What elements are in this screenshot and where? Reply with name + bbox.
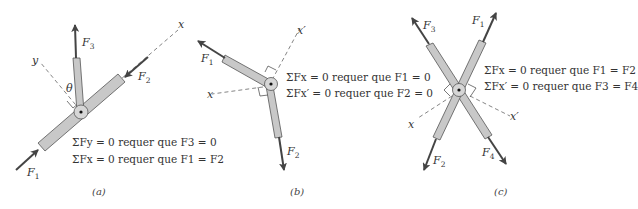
x-axis-label: x <box>178 18 185 31</box>
x-axis-label: x <box>207 88 214 101</box>
panel-b-equation-1: ΣFx = 0 requer que F1 = 0 <box>286 70 431 84</box>
panel-c-caption: (c) <box>494 186 507 197</box>
force-f2-arrow <box>279 137 284 170</box>
x-axis-label: x <box>408 118 415 131</box>
force-f2-label: F2 <box>286 145 300 160</box>
force-f1-label: F1 <box>471 14 484 29</box>
force-f2-label: F2 <box>137 70 151 85</box>
x-prime-axis-label: x′ <box>510 110 519 123</box>
force-f1-label: F1 <box>200 52 213 67</box>
panel-a-equation-1: ΣFy = 0 requer que F3 = 0 <box>72 135 217 149</box>
y-axis-label: y <box>31 54 39 67</box>
force-f3-label: F3 <box>81 36 95 51</box>
force-f2-label: F2 <box>432 154 446 169</box>
theta-label: θ <box>66 82 73 95</box>
force-f3-arrow <box>75 25 76 58</box>
force-f3-label: F3 <box>422 19 436 34</box>
panel-b-caption: (b) <box>290 186 304 197</box>
x-prime-axis-label: x′ <box>297 24 306 37</box>
x-axis-dashed <box>212 86 270 94</box>
member-f2 <box>266 86 282 138</box>
panel-c-equation-2: ΣFx′ = 0 requer que F3 = F4 <box>484 79 638 93</box>
panel-a-equation-2: ΣFx = 0 requer que F1 = F2 <box>72 152 224 166</box>
force-f1-label: F1 <box>26 166 39 181</box>
panel-c-equation-1: ΣFx = 0 requer que F1 = F2 <box>484 63 636 77</box>
panel-b-equation-2: ΣFx′ = 0 requer que F2 = 0 <box>286 86 433 100</box>
panel-a-caption: (a) <box>92 186 106 197</box>
force-f4-label: F4 <box>481 146 495 161</box>
force-f1-arrow <box>483 13 496 42</box>
